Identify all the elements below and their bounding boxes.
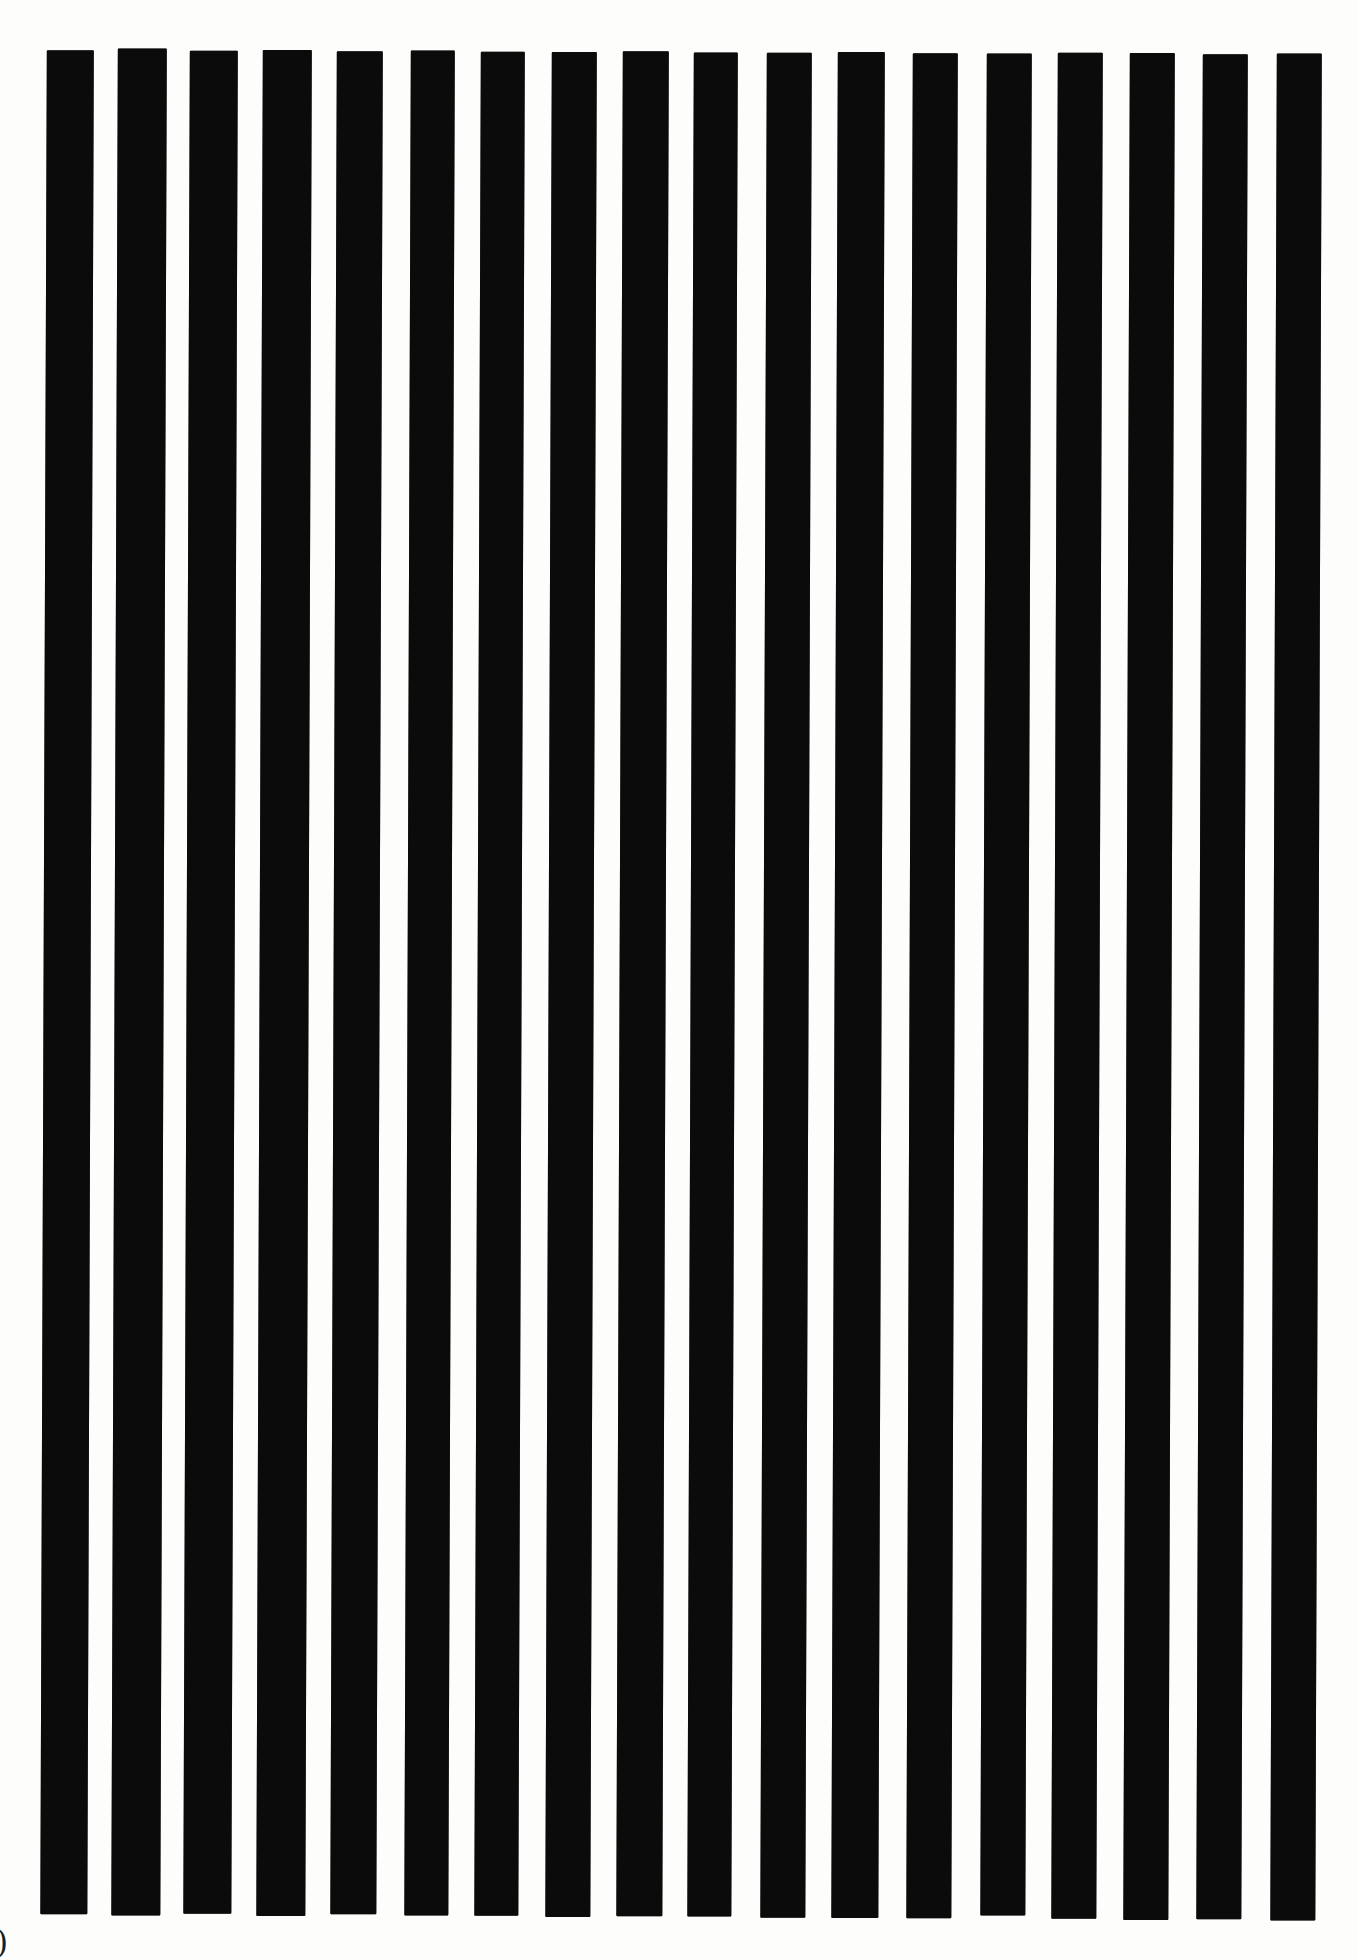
- stripe-bar: [111, 48, 167, 1915]
- stripe-bar: [831, 52, 885, 1918]
- stripe-layer: [0, 0, 1357, 1960]
- stripe-bar: [183, 51, 238, 1914]
- stripe-bar: [1270, 53, 1322, 1920]
- stripe-bar: [40, 50, 94, 1914]
- stripe-bar: [545, 52, 597, 1917]
- stripe-bar: [616, 51, 669, 1916]
- stripe-bar: [330, 51, 383, 1914]
- stripe-bar: [1196, 54, 1248, 1919]
- stripe-bar: [1051, 53, 1103, 1919]
- stripe-bar: [760, 53, 812, 1918]
- stripe-bar: [474, 52, 525, 1916]
- stripe-bar: [906, 53, 958, 1918]
- stripe-bar: [1123, 53, 1175, 1920]
- stripe-bar: [687, 52, 738, 1916]
- stripe-bar: [980, 53, 1031, 1915]
- page-number-fragment: ): [0, 1927, 8, 1958]
- stripe-bar: [256, 50, 312, 1916]
- stripe-bar: [404, 50, 455, 1915]
